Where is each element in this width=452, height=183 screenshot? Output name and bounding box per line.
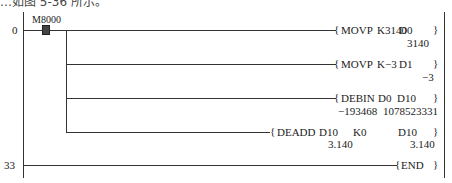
rung-1-instruction: MOVP xyxy=(341,24,373,36)
rung-4-op2-value: 3.140 xyxy=(410,138,435,150)
rung-3-op2-value: 1078523331 xyxy=(383,105,438,117)
rung-1-wire xyxy=(66,30,336,31)
step-number-0: 0 xyxy=(12,24,18,36)
rung-3-op1: D0 xyxy=(378,92,391,104)
rung-3-close-bracket: } xyxy=(433,91,438,103)
rung-3-op1-value: −193468 xyxy=(338,105,377,117)
end-open-bracket: { xyxy=(395,158,400,170)
rung-3-wire xyxy=(66,98,336,99)
end-rung-wire xyxy=(24,165,397,166)
right-power-rail xyxy=(444,12,445,178)
rung-4-close-bracket: } xyxy=(433,125,438,137)
rung-2-wire xyxy=(66,64,336,65)
end-instruction: END xyxy=(401,159,424,171)
rung-2-open-bracket: { xyxy=(334,57,339,69)
left-power-rail xyxy=(23,12,24,178)
rung-1-op2: D0 xyxy=(399,24,412,36)
branch-vertical xyxy=(66,30,67,132)
rung-3-instruction: DEBIN xyxy=(341,92,375,104)
rung-4-op2: D10 xyxy=(398,126,417,138)
rung-3-open-bracket: { xyxy=(334,91,339,103)
rung-2-op2: D1 xyxy=(399,58,412,70)
rung-wire-0b xyxy=(50,30,66,31)
step-number-33: 33 xyxy=(4,159,15,171)
rung-2-instruction: MOVP xyxy=(341,58,373,70)
rung-4-op1: D10 xyxy=(319,126,338,138)
rung-3-op2: D10 xyxy=(397,92,416,104)
rung-4-op1b: K0 xyxy=(353,126,366,138)
contact-m8000[interactable] xyxy=(42,25,50,35)
rung-4-open-bracket: { xyxy=(270,125,275,137)
rung-1-close-bracket: } xyxy=(433,23,438,35)
rung-wire-0a xyxy=(24,30,42,31)
rung-1-op2-value: 3140 xyxy=(407,37,429,49)
rung-4-wire xyxy=(66,132,270,133)
end-close-bracket: } xyxy=(433,158,438,170)
rung-4-instruction: DEADD xyxy=(277,126,316,138)
rung-2-close-bracket: } xyxy=(433,57,438,69)
caption-text: …如图 5-36 所示。 xyxy=(0,0,107,9)
rung-4-op1-value: 3.140 xyxy=(328,138,353,150)
rung-2-op2-value: −3 xyxy=(422,71,434,83)
rung-2-op1: K−3 xyxy=(377,58,397,70)
rung-1-open-bracket: { xyxy=(334,23,339,35)
